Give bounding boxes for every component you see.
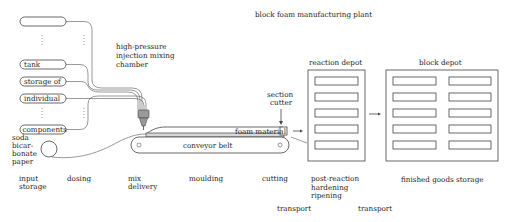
diagram-title: block foam manufacturing plant xyxy=(255,10,372,19)
section-cutter: section cutter xyxy=(267,90,293,125)
paper-roll-icon xyxy=(41,141,57,157)
tank-label: individual xyxy=(24,94,61,103)
transport-label-2: transport xyxy=(358,204,392,213)
foam-material-strip: foam material xyxy=(146,127,287,137)
svg-text:high-pressure: high-pressure xyxy=(116,42,167,51)
stage-dosing: dosing xyxy=(67,174,92,183)
reaction-depot: reaction depot xyxy=(308,58,365,161)
reaction-slot xyxy=(315,77,358,85)
component-tanks: tank storage of individual components xyxy=(20,17,84,134)
cutter-arrowhead-icon xyxy=(279,121,283,125)
block-slot xyxy=(393,77,436,85)
block-slot xyxy=(393,93,436,101)
svg-text:paper: paper xyxy=(12,157,34,166)
tank-label: components xyxy=(23,125,67,134)
tank-0 xyxy=(20,17,66,26)
block-slot xyxy=(449,93,491,101)
reaction-slot xyxy=(315,109,358,117)
tank-label: storage of xyxy=(24,77,62,86)
svg-text:storage: storage xyxy=(19,182,46,191)
dosing-pipes xyxy=(66,22,146,130)
arrow-icon xyxy=(300,130,303,133)
transport-label-1: transport xyxy=(277,204,311,213)
reaction-slot xyxy=(315,141,358,149)
block-slot xyxy=(449,77,491,85)
svg-text:cutter: cutter xyxy=(270,98,293,107)
tank-label: tank xyxy=(24,60,41,69)
foam-material-label: foam material xyxy=(235,127,287,136)
block-slot xyxy=(449,141,491,149)
stage-cutting: cutting xyxy=(262,174,288,183)
block-slot xyxy=(449,109,491,117)
mixing-chamber-label: high-pressure injection mixing chamber xyxy=(116,42,175,69)
svg-text:delivery: delivery xyxy=(128,182,158,191)
arrow-icon xyxy=(378,113,381,116)
block-depot-label: block depot xyxy=(419,58,462,67)
mixing-head-nozzle xyxy=(138,110,149,130)
svg-text:ripening: ripening xyxy=(311,191,342,200)
reaction-slot xyxy=(315,125,358,133)
reaction-depot-label: reaction depot xyxy=(309,58,362,67)
stage-post-reaction: post-reaction xyxy=(311,174,359,183)
paper-roll: soda bicar- bonate paper xyxy=(12,133,146,166)
stage-labels: input storage dosing mix delivery mouldi… xyxy=(19,174,484,200)
block-slot xyxy=(393,109,436,117)
block-slot xyxy=(393,125,436,133)
stage-moulding: moulding xyxy=(189,174,224,183)
transfer-line xyxy=(291,137,307,143)
block-slot xyxy=(393,141,436,149)
reaction-slot xyxy=(315,93,358,101)
block-slot xyxy=(449,125,491,133)
svg-text:injection mixing: injection mixing xyxy=(116,51,175,60)
conveyor-label: conveyor belt xyxy=(183,141,233,150)
diagram-canvas: block foam manufacturing plant tank stor… xyxy=(0,0,513,222)
svg-text:chamber: chamber xyxy=(116,60,149,69)
stage-finished-goods-storage: finished goods storage xyxy=(401,175,484,184)
block-depot: block depot xyxy=(386,58,498,161)
conveyor-belt: conveyor belt xyxy=(131,137,289,153)
